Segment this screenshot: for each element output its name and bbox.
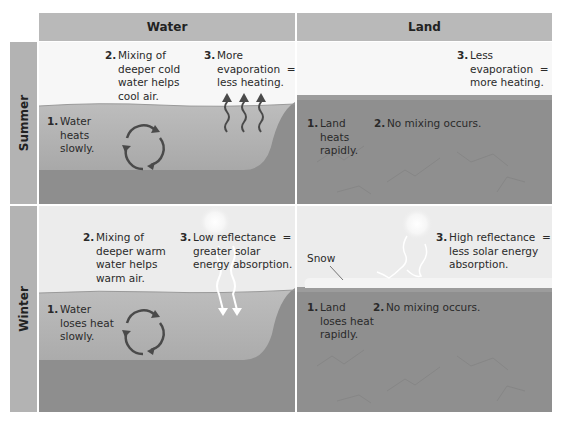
row-header-winter: Winter [10,206,37,412]
column-header-water: Water [39,13,295,41]
column-header-land-label: Land [408,20,441,34]
panel-winter-land: Snow 1. Land loses heat rapidly. 2. No m… [297,206,552,412]
winter-land-item-1: 1. Land loses heat rapidly. [307,301,374,342]
summer-land-item-1: 1. Land heats rapidly. [307,117,358,158]
snow-layer [305,278,552,288]
row-header-summer: Summer [10,42,37,204]
row-header-winter-label: Winter [17,286,31,332]
summer-land-item-3: 3. Less evaporation = more heating. [457,49,549,90]
summer-water-item-2: 2. Mixing of deeper cold water helps coo… [105,49,180,103]
winter-water-item-3: 3. Low reflectance = greater solar energ… [180,231,292,272]
winter-water-item-1: 1. Water loses heat slowly. [47,303,114,344]
panel-winter-water: 1. Water loses heat slowly. 2. Mixing of… [39,206,295,412]
panel-summer-water: 1. Water heats slowly. 2. Mixing of deep… [39,42,295,204]
column-header-land: Land [297,13,552,41]
snow-pointer-line [330,266,343,280]
snow-label: Snow [307,252,335,264]
summer-land-item-2: 2. No mixing occurs. [374,117,481,131]
panel-summer-land: 1. Land heats rapidly. 2. No mixing occu… [297,42,552,204]
winter-land-item-3: 3. High reflectance = less solar energy … [436,231,551,272]
summer-water-item-3: 3. More evaporation = less heating. [204,49,295,90]
row-header-summer-label: Summer [17,95,31,151]
winter-land-item-2: 2. No mixing occurs. [373,301,480,315]
winter-water-item-2: 2. Mixing of deeper warm water helps war… [83,231,166,285]
sun-icon [401,208,433,240]
reflected-light-arrows-icon [377,236,427,278]
summer-water-item-1: 1. Water heats slowly. [47,115,94,156]
column-header-water-label: Water [147,20,188,34]
